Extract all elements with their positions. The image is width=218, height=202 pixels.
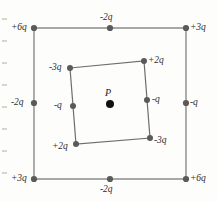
figure-canvas — [0, 0, 218, 202]
scan-artifact — [2, 40, 7, 42]
charge-label-inner-left-mid: -q — [54, 101, 62, 111]
charge-label-inner-bottom-right: -3q — [154, 136, 166, 146]
charge-dot-outer-top-mid — [107, 25, 113, 31]
scan-artifact — [2, 84, 7, 86]
charge-label-outer-bottom-mid: -2q — [100, 185, 112, 195]
charge-label-outer-bottom-left: +3q — [11, 174, 27, 184]
scan-artifact — [2, 150, 7, 152]
charge-dot-outer-top-left — [31, 25, 37, 31]
charge-dot-inner-bottom-left — [73, 141, 79, 147]
charge-label-outer-top-mid: -2q — [100, 13, 112, 23]
scan-artifact — [2, 172, 7, 174]
scan-artifact — [2, 106, 7, 108]
charge-dot-outer-top-right — [183, 25, 189, 31]
charge-label-outer-bottom-right: +6q — [190, 174, 206, 184]
charge-dot-inner-right-mid — [144, 97, 150, 103]
scan-artifact — [2, 62, 7, 64]
charge-dot-outer-right-mid — [183, 100, 189, 106]
charge-label-inner-bottom-left: +2q — [52, 142, 68, 152]
charge-dot-outer-left-mid — [31, 100, 37, 106]
field-point-dot — [106, 100, 114, 108]
charge-label-outer-right-mid: -q — [190, 98, 198, 108]
charge-label-outer-top-left: +6q — [11, 23, 27, 33]
charge-label-inner-right-mid: -q — [152, 95, 160, 105]
charge-dot-inner-top-right — [141, 58, 147, 64]
charge-dot-outer-bottom-right — [183, 176, 189, 182]
charge-dot-inner-left-mid — [70, 103, 76, 109]
physics-figure: +6q -2q +3q -2q -q +3q -2q +6q -3q +2q -… — [0, 0, 218, 202]
scan-artifact — [2, 18, 7, 20]
charge-dot-inner-top-left — [67, 65, 73, 71]
charge-label-outer-top-right: +3q — [190, 23, 206, 33]
charge-dot-outer-bottom-left — [31, 176, 37, 182]
charge-dot-outer-bottom-mid — [107, 176, 113, 182]
charge-label-inner-top-right: +2q — [148, 56, 164, 66]
field-point-label: P — [105, 88, 111, 98]
charge-label-outer-left-mid: -2q — [11, 98, 23, 108]
charge-label-inner-top-left: -3q — [49, 63, 61, 73]
charge-dot-inner-bottom-right — [147, 135, 153, 141]
scan-artifact — [2, 128, 7, 130]
